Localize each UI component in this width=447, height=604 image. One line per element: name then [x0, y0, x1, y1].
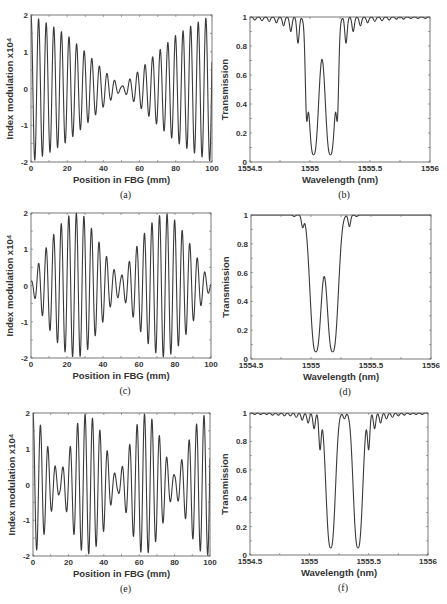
x-tick-label: 1554.5 [239, 361, 264, 370]
x-axis-label: Position in FBG (mm) [72, 370, 169, 381]
axes-frame [250, 413, 428, 555]
x-tick-label: 1556 [421, 164, 439, 173]
y-tick-label: 0 [26, 481, 31, 490]
y-tick-label: 0.2 [236, 523, 248, 532]
y-tick-label: -2 [21, 158, 29, 167]
x-tick-label: 60 [135, 360, 144, 369]
panel-caption: (a) [120, 189, 131, 201]
y-tick-label: 0.4 [237, 297, 249, 306]
y-tick-label: 1 [26, 445, 31, 454]
y-axis-label: Index modulation x10⁴ [6, 433, 17, 535]
y-axis-label: Transmission [220, 256, 231, 317]
x-tick-label: 1554.5 [238, 164, 263, 173]
x-tick-label: 100 [203, 558, 217, 567]
x-tick-label: 1555 [302, 361, 320, 370]
x-tick-label: 40 [99, 558, 108, 567]
panel-c: 020406080100-2-1012Position in FBG (mm)I… [4, 209, 218, 397]
y-tick-label: -1 [21, 121, 29, 130]
x-axis-label: Position in FBG (mm) [73, 568, 170, 579]
x-tick-label: 60 [135, 558, 144, 567]
y-tick-label: 0.8 [237, 240, 249, 249]
panel-caption: (c) [119, 385, 130, 397]
y-tick-label: 1 [244, 211, 249, 220]
x-tick-label: 100 [205, 164, 219, 173]
panel-caption: (b) [338, 189, 350, 201]
y-tick-label: 0.6 [236, 71, 248, 80]
y-axis-label: Transmission [219, 59, 230, 120]
y-tick-label: 0.6 [236, 466, 248, 475]
x-tick-label: 1555 [301, 164, 319, 173]
x-tick-label: 40 [99, 164, 108, 173]
x-tick-label: 1555.5 [356, 557, 381, 566]
panel-caption: (f) [338, 582, 348, 594]
x-tick-label: 1556 [419, 557, 437, 566]
x-tick-label: 40 [99, 360, 108, 369]
y-tick-label: 1 [243, 13, 248, 22]
y-tick-label: 0.8 [236, 42, 248, 51]
y-tick-label: 2 [24, 209, 29, 218]
panel-d: 1554.515551555.5155600.20.40.60.81Wavele… [220, 211, 440, 398]
x-tick-label: 80 [170, 558, 179, 567]
axes-frame [251, 215, 431, 359]
y-tick-label: 0 [243, 158, 248, 167]
y-tick-label: 0 [244, 355, 249, 364]
panel-a: 020406080100-2-1012Position in FBG (mm)I… [4, 11, 219, 201]
y-tick-label: 1 [243, 409, 248, 418]
y-tick-label: 1 [24, 245, 29, 254]
y-tick-label: 0 [24, 85, 29, 94]
y-axis-label: Transmission [219, 453, 230, 514]
panel-caption: (d) [339, 386, 351, 398]
y-axis-label: Index modulation x10⁴ [4, 234, 15, 336]
y-tick-label: 0.2 [236, 129, 248, 138]
panel-caption: (e) [120, 583, 131, 595]
y-tick-label: -2 [23, 552, 31, 561]
x-tick-label: 20 [64, 558, 73, 567]
y-tick-label: 2 [24, 11, 29, 20]
y-tick-label: 0 [243, 551, 248, 560]
y-tick-label: -1 [21, 318, 29, 327]
y-tick-label: 0 [24, 282, 29, 291]
y-tick-label: 2 [26, 409, 31, 418]
figure: 020406080100-2-1012Position in FBG (mm)I… [0, 0, 447, 604]
x-tick-label: 1554.5 [238, 557, 263, 566]
data-curve [33, 413, 210, 555]
x-axis-label: Wavelength (nm) [303, 371, 379, 382]
y-axis-label: Index modulation x10⁴ [4, 37, 15, 139]
data-curve [31, 213, 211, 357]
y-tick-label: -2 [21, 354, 29, 363]
data-curve [251, 215, 431, 352]
y-tick-label: 0.4 [236, 100, 248, 109]
y-tick-label: 0.2 [237, 326, 249, 335]
x-tick-label: 1555.5 [358, 164, 383, 173]
x-tick-label: 20 [63, 360, 72, 369]
x-tick-label: 60 [135, 164, 144, 173]
data-curve [31, 15, 212, 161]
panel-e: 020406080100-2-1012Position in FBG (mm)I… [6, 409, 217, 595]
x-tick-label: 1555.5 [359, 361, 384, 370]
x-tick-label: 1556 [422, 361, 440, 370]
x-axis-label: Wavelength (nm) [302, 174, 378, 185]
y-tick-label: 0.4 [236, 494, 248, 503]
x-tick-label: 20 [63, 164, 72, 173]
x-axis-label: Wavelength (nm) [301, 567, 377, 578]
x-tick-label: 0 [31, 558, 36, 567]
y-tick-label: -1 [23, 516, 31, 525]
data-curve [250, 413, 428, 548]
y-tick-label: 0.8 [236, 437, 248, 446]
x-tick-label: 0 [29, 360, 34, 369]
x-tick-label: 80 [171, 360, 180, 369]
data-curve [250, 17, 430, 155]
panel-b: 1554.515551555.5155600.20.40.60.81Wavele… [219, 13, 439, 201]
x-tick-label: 1555 [300, 557, 318, 566]
x-axis-label: Position in FBG (mm) [73, 174, 170, 185]
y-tick-label: 0.6 [237, 269, 249, 278]
x-tick-label: 100 [204, 360, 218, 369]
panel-f: 1554.515551555.5155600.20.40.60.81Wavele… [219, 409, 437, 594]
x-tick-label: 80 [171, 164, 180, 173]
x-tick-label: 0 [29, 164, 34, 173]
y-tick-label: 1 [24, 48, 29, 57]
